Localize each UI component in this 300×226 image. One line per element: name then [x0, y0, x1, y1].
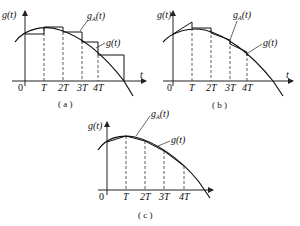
leader-curve — [158, 141, 170, 146]
approx-label: gA(t) — [151, 108, 170, 120]
approx-label: gA(t) — [233, 9, 252, 21]
tick-4T: 4T — [242, 82, 254, 93]
tick-T: T — [123, 191, 130, 202]
leader-approx — [230, 21, 237, 40]
origin-label: 0 — [18, 82, 23, 93]
leader-approx — [136, 116, 150, 136]
caption-c: ( c ) — [138, 210, 153, 220]
tick-T: T — [189, 82, 196, 93]
panel-c: g(t) gA(t) g(t) 0 T 2T 3T 4T ( c ) — [88, 108, 213, 220]
leader-curve — [248, 44, 262, 53]
origin-label: 0 — [99, 191, 104, 202]
tick-4T: 4T — [179, 191, 191, 202]
curve-label: g(t) — [263, 37, 278, 49]
caption-a: ( a ) — [58, 99, 73, 109]
tick-2T: 2T — [206, 82, 218, 93]
x-axis-label: t — [140, 69, 143, 80]
leader-curve — [96, 43, 105, 48]
x-axis-label: t — [286, 69, 289, 80]
panel-a: g(t) gA(t) g(t) t 0 T 2T 3T 4T ( a ) — [2, 9, 146, 109]
first-order-hold-approximation — [173, 22, 247, 56]
curve-label: g(t) — [171, 134, 186, 146]
origin-label: 0 — [167, 82, 172, 93]
tick-2T: 2T — [140, 191, 152, 202]
y-axis-label: g(t) — [88, 120, 103, 132]
signal-reconstruction-figure: g(t) gA(t) g(t) t 0 T 2T 3T 4T ( a ) g(t… — [0, 0, 300, 226]
tick-3T: 3T — [224, 82, 237, 93]
tick-3T: 3T — [76, 82, 89, 93]
approx-label: gA(t) — [87, 10, 106, 22]
leader-approx — [80, 20, 88, 31]
y-axis-label: g(t) — [2, 9, 17, 21]
y-axis-label: g(t) — [157, 9, 172, 21]
curve-label: g(t) — [106, 37, 121, 49]
tick-T: T — [41, 82, 48, 93]
panel-b: g(t) gA(t) g(t) t 0 T 2T 3T 4T ( b ) — [157, 9, 293, 110]
tick-4T: 4T — [93, 82, 105, 93]
caption-b: ( b ) — [212, 100, 227, 110]
tick-2T: 2T — [58, 82, 70, 93]
tick-3T: 3T — [158, 191, 171, 202]
staircase-approximation — [25, 27, 124, 81]
